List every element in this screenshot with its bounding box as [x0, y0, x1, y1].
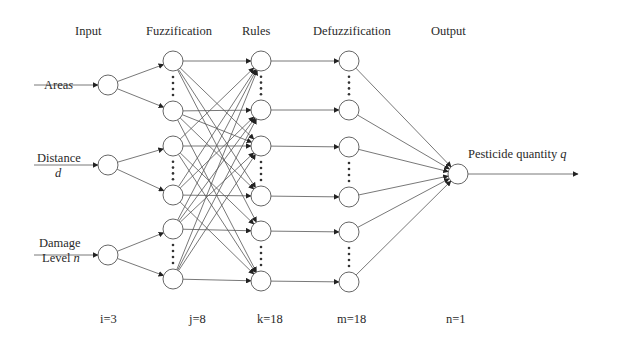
ellipsis-dot: [172, 244, 175, 247]
defuzzification-node: [339, 187, 359, 207]
edge-input-fuzz: [117, 89, 163, 108]
defuzzification-node: [339, 272, 359, 292]
defuzzification-node: [339, 51, 359, 71]
ellipsis-dot: [260, 258, 263, 261]
rule-node: [251, 271, 271, 291]
layer-header-input: Input: [75, 24, 101, 39]
ellipsis-dot: [260, 173, 263, 176]
edge-rule-defuzz: [271, 231, 339, 232]
edge-rule-defuzz: [271, 146, 339, 147]
count-label-fuzzification: j=8: [189, 312, 206, 327]
input-area-symbol: s: [68, 78, 73, 92]
ellipsis-dot: [348, 247, 351, 250]
ellipsis-dot: [172, 76, 175, 79]
ellipsis-dot: [348, 93, 351, 96]
edge-rule-defuzz: [271, 196, 339, 197]
ellipsis-dot: [172, 82, 175, 85]
defuzzification-node: [339, 100, 359, 120]
edge-fuzz-rule: [183, 279, 251, 281]
defuzzification-node: [339, 222, 359, 242]
ellipsis-dot: [172, 88, 175, 91]
edge-fuzz-rule: [178, 119, 257, 270]
rule-node: [251, 100, 271, 120]
layer-header-defuzzification: Defuzzification: [313, 24, 391, 39]
ellipsis-dot: [172, 161, 175, 164]
layer-header-fuzzification: Fuzzification: [146, 24, 212, 39]
output-node: [448, 164, 468, 184]
input-label-area: Areas: [44, 78, 73, 93]
output-label: Pesticide quantity q: [468, 147, 567, 162]
input-node: [98, 75, 118, 95]
ellipsis-dot: [348, 162, 351, 165]
edge-input-fuzz: [117, 258, 163, 275]
fuzzification-node: [163, 185, 183, 205]
ellipsis-dot: [172, 262, 175, 265]
ellipsis-dot: [260, 264, 263, 267]
input-level-text: Level: [42, 251, 70, 265]
count-label-input: i=3: [100, 312, 117, 327]
fuzzification-node: [163, 219, 183, 239]
ellipsis-dot: [348, 168, 351, 171]
rule-node: [251, 186, 271, 206]
ellipsis-dot: [348, 253, 351, 256]
ellipsis-dot: [348, 265, 351, 268]
input-label-distance: Distance: [37, 151, 81, 166]
edge-input-fuzz: [117, 169, 164, 191]
edge-rule-defuzz: [271, 281, 339, 282]
layer-header-output: Output: [431, 24, 466, 39]
ellipsis-dot: [348, 174, 351, 177]
output-label-text: Pesticide quantity: [468, 147, 557, 161]
rule-node: [251, 221, 271, 241]
ellipsis-dot: [260, 161, 263, 164]
input-level-symbol: n: [74, 251, 80, 265]
ellipsis-dot: [172, 256, 175, 259]
ellipsis-dot: [348, 81, 351, 84]
output-label-symbol: q: [560, 147, 566, 161]
rule-node: [251, 51, 271, 71]
fuzzification-node: [163, 136, 183, 156]
ellipsis-dot: [348, 259, 351, 262]
network-diagram: [0, 0, 619, 344]
ellipsis-dot: [260, 93, 263, 96]
ellipsis-dot: [172, 178, 175, 181]
edge-input-fuzz: [117, 233, 163, 252]
fuzzification-node: [163, 269, 183, 289]
ellipsis-dot: [260, 87, 263, 90]
input-node: [98, 245, 118, 265]
edge-defuzz-output: [359, 176, 448, 195]
ellipsis-dot: [260, 246, 263, 249]
fuzzification-node: [163, 101, 183, 121]
ellipsis-dot: [172, 166, 175, 169]
count-label-output: n=1: [446, 312, 466, 327]
ellipsis-dot: [260, 76, 263, 79]
edge-defuzz-output: [358, 179, 449, 228]
fuzzification-node: [163, 51, 183, 71]
input-area-text: Area: [44, 78, 68, 92]
edge-input-fuzz: [117, 64, 163, 81]
ellipsis-dot: [172, 172, 175, 175]
edge-defuzz-output: [356, 181, 451, 275]
input-label-damage: Damage: [39, 236, 81, 251]
ellipsis-dot: [348, 87, 351, 90]
defuzzification-node: [339, 137, 359, 157]
ellipsis-dot: [348, 76, 351, 79]
ellipsis-dot: [260, 81, 263, 84]
rule-node: [251, 136, 271, 156]
input-node: [98, 155, 118, 175]
layer-header-rules: Rules: [242, 24, 270, 39]
edge-input-fuzz: [118, 149, 164, 162]
input-symbol-distance: d: [55, 166, 61, 181]
ellipsis-dot: [348, 180, 351, 183]
ellipsis-dot: [260, 252, 263, 255]
count-label-defuzzification: m=18: [337, 312, 366, 327]
count-label-rules: k=18: [257, 312, 283, 327]
ellipsis-dot: [260, 179, 263, 182]
ellipsis-dot: [172, 250, 175, 253]
input-label-level: Level n: [42, 251, 80, 266]
ellipsis-dot: [172, 94, 175, 97]
ellipsis-dot: [260, 167, 263, 170]
